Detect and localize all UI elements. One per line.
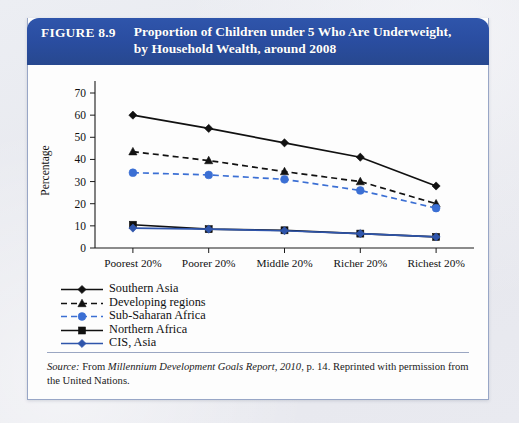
chart-legend: Southern AsiaDeveloping regionsSub-Sahar… (60, 282, 360, 350)
figure-title-line1: Proportion of Children under 5 Who Are U… (134, 24, 452, 39)
source-note: Source: From Millennium Development Goal… (47, 360, 471, 387)
svg-text:Richer 20%: Richer 20% (333, 257, 387, 269)
legend-key-square-icon (60, 323, 104, 336)
figure-title: Proportion of Children under 5 Who Are U… (134, 24, 452, 57)
legend-item[interactable]: Southern Asia (60, 282, 360, 296)
chart-area: Percentage 010203040506070 Poorest 20%Po… (27, 65, 489, 280)
y-axis-title: Percentage (39, 145, 52, 195)
legend-key-circle-icon (60, 309, 104, 322)
svg-text:Percentage: Percentage (39, 145, 52, 195)
svg-text:Poorest 20%: Poorest 20% (104, 257, 162, 269)
figure-banner: FIGURE 8.9 Proportion of Children under … (27, 18, 489, 65)
legend-item[interactable]: CIS, Asia (60, 336, 360, 350)
legend-item[interactable]: Sub-Saharan Africa (60, 309, 360, 323)
svg-text:Richest 20%: Richest 20% (407, 257, 465, 269)
svg-text:70: 70 (75, 87, 87, 99)
legend-item[interactable]: Developing regions (60, 296, 360, 310)
svg-text:60: 60 (75, 109, 87, 121)
svg-text:Poorer 20%: Poorer 20% (182, 257, 236, 269)
svg-text:20: 20 (75, 198, 87, 210)
x-axis-ticks: Poorest 20%Poorer 20%Middle 20%Richer 20… (104, 248, 465, 269)
chart-axes (95, 81, 474, 248)
legend-key-diamond-icon (60, 282, 104, 295)
line-chart: Percentage 010203040506070 Poorest 20%Po… (27, 65, 489, 280)
figure-label: FIGURE 8.9 (41, 24, 116, 41)
figure-title-line2: by Household Wealth, around 2008 (134, 41, 452, 58)
source-text-before: From (80, 361, 108, 372)
legend-key-triangle-icon (60, 296, 104, 309)
chart-series (129, 111, 440, 241)
legend-key-diamond-icon (60, 336, 104, 349)
svg-text:50: 50 (75, 131, 87, 143)
source-divider (47, 352, 469, 353)
source-title: Millennium Development Goals Report, 201… (108, 361, 301, 372)
y-axis-ticks: 010203040506070 (75, 87, 96, 254)
svg-text:30: 30 (75, 176, 87, 188)
source-label: Source: (47, 361, 80, 372)
svg-text:10: 10 (75, 220, 87, 232)
svg-text:40: 40 (75, 153, 87, 165)
svg-text:0: 0 (80, 242, 86, 254)
legend-item[interactable]: Northern Africa (60, 323, 360, 337)
svg-text:Middle 20%: Middle 20% (256, 257, 313, 269)
legend-label: CIS, Asia (109, 335, 156, 350)
